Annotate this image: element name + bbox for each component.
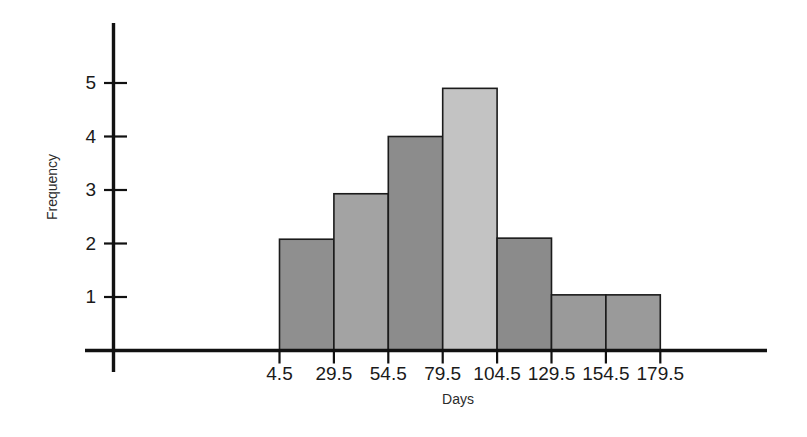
y-axis-ticks: 12345 — [85, 72, 127, 307]
y-tick-label: 4 — [85, 126, 96, 147]
x-tick-label: 179.5 — [637, 363, 685, 384]
bars-group — [280, 88, 661, 350]
y-axis-title: Frequency — [44, 154, 60, 220]
histogram-bar — [388, 137, 442, 351]
histogram-bar — [497, 238, 551, 350]
x-tick-label: 79.5 — [424, 363, 461, 384]
x-axis-ticks: 4.529.554.579.5104.5129.5154.5179.5 — [266, 352, 684, 384]
histogram-bar — [606, 295, 660, 351]
histogram-bar — [280, 239, 334, 350]
x-tick-label: 154.5 — [582, 363, 630, 384]
x-tick-label: 104.5 — [473, 363, 521, 384]
histogram-figure: 12345 4.529.554.579.5104.5129.5154.5179.… — [0, 0, 807, 437]
y-tick-label: 1 — [85, 286, 96, 307]
x-tick-label: 4.5 — [266, 363, 292, 384]
histogram-bar — [334, 194, 388, 351]
y-tick-label: 3 — [85, 179, 96, 200]
y-tick-label: 2 — [85, 233, 96, 254]
x-tick-label: 129.5 — [528, 363, 576, 384]
x-tick-label: 54.5 — [370, 363, 407, 384]
histogram-bar — [552, 295, 606, 351]
y-tick-label: 5 — [85, 72, 96, 93]
x-axis-title: Days — [442, 391, 474, 407]
x-tick-label: 29.5 — [315, 363, 352, 384]
histogram-plot: 12345 4.529.554.579.5104.5129.5154.5179.… — [0, 0, 807, 437]
histogram-bar — [443, 88, 497, 350]
